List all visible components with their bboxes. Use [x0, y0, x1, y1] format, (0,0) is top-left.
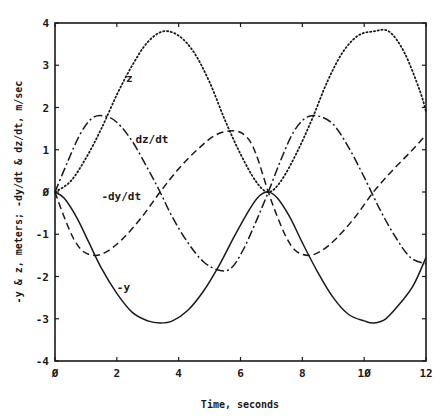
series-z-line	[55, 30, 426, 192]
y-tick-label: Ø	[41, 186, 49, 199]
y-tick-label: 4	[42, 17, 49, 30]
x-tick-label: 12	[419, 367, 432, 380]
y-axis-label: -y & z, meters; -dy/dt & dz/dt, m/sec	[13, 81, 24, 304]
y-tick-label: 2	[42, 102, 49, 115]
series-y-line	[55, 192, 426, 323]
x-tick-label: 6	[237, 367, 244, 380]
chart-figure: Ø24681Ø12 -4-3-2-1Ø1234 zdz/dt-dy/dt-y T…	[0, 0, 444, 419]
y-tick-label: -1	[36, 228, 50, 241]
series-dydt-label: -dy/dt	[101, 190, 141, 203]
series-y-label: -y	[117, 281, 131, 294]
y-tick-label: -4	[36, 355, 50, 368]
series-layer	[55, 30, 426, 323]
y-tick-label: -2	[36, 271, 49, 284]
x-tick-label: 2	[114, 367, 121, 380]
x-tick-label: Ø	[51, 367, 59, 380]
x-tick-label: 1Ø	[358, 367, 372, 380]
y-tick-label: 1	[42, 144, 49, 157]
x-tick-label: 8	[299, 367, 306, 380]
series-dzdt-label: dz/dt	[135, 133, 168, 146]
series-z-label: z	[126, 72, 133, 85]
x-tick-label: 4	[175, 367, 182, 380]
curve-labels: zdz/dt-dy/dt-y	[101, 72, 168, 294]
y-tick-label: -3	[36, 313, 49, 326]
line-chart: Ø24681Ø12 -4-3-2-1Ø1234 zdz/dt-dy/dt-y T…	[0, 0, 444, 419]
y-axis-ticks: -4-3-2-1Ø1234	[36, 17, 426, 368]
x-axis-label: Time, seconds	[201, 399, 279, 410]
y-tick-label: 3	[42, 59, 49, 72]
